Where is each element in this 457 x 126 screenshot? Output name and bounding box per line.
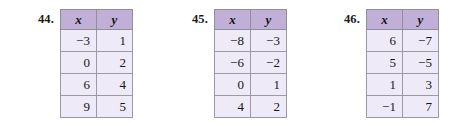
table-row: −8−3 [214,30,286,52]
cell-y-value: 2 [250,96,286,118]
cell-y-value: −7 [402,30,438,52]
cell-x-value: −3 [60,30,96,52]
cell-x-value: 6 [60,74,96,96]
cell-x-value: −6 [214,52,250,74]
cell-y-value: 7 [402,96,438,118]
problem-number: 44. [38,9,54,29]
table-header-row: xy [60,10,132,30]
cell-x-value: −1 [366,96,402,118]
exercise-45: 45.xy−8−3−6−20142 [192,9,287,118]
cell-x-value: 0 [214,74,250,96]
xy-value-table: xy−31026495 [60,9,133,118]
column-header-x: x [366,10,402,30]
xy-value-table: xy6−75−513−17 [366,9,439,118]
column-header-y: y [402,10,438,30]
cell-x-value: 9 [60,96,96,118]
table-row: 13 [366,74,438,96]
table-row: 42 [214,96,286,118]
table-row: 64 [60,74,132,96]
table-row: −6−2 [214,52,286,74]
table-row: −17 [366,96,438,118]
problem-number: 46. [344,9,360,29]
column-header-x: x [214,10,250,30]
cell-x-value: 5 [366,52,402,74]
column-header-x: x [60,10,96,30]
cell-y-value: 3 [402,74,438,96]
cell-x-value: −8 [214,30,250,52]
cell-y-value: −2 [250,52,286,74]
cell-y-value: 1 [96,30,132,52]
cell-y-value: 1 [250,74,286,96]
cell-x-value: 1 [366,74,402,96]
exercise-46: 46.xy6−75−513−17 [344,9,439,118]
cell-y-value: 4 [96,74,132,96]
cell-y-value: −5 [402,52,438,74]
column-header-y: y [250,10,286,30]
cell-x-value: 6 [366,30,402,52]
cell-x-value: 0 [60,52,96,74]
column-header-y: y [96,10,132,30]
cell-y-value: −3 [250,30,286,52]
xy-value-table: xy−8−3−6−20142 [214,9,287,118]
table-row: 5−5 [366,52,438,74]
table-row: 6−7 [366,30,438,52]
table-row: 02 [60,52,132,74]
cell-x-value: 4 [214,96,250,118]
exercise-44: 44.xy−31026495 [38,9,133,118]
table-row: 95 [60,96,132,118]
problem-number: 45. [192,9,208,29]
table-row: 01 [214,74,286,96]
exercise-row: 44.xy−3102649545.xy−8−3−6−2014246.xy6−75… [0,0,457,126]
table-row: −31 [60,30,132,52]
cell-y-value: 5 [96,96,132,118]
cell-y-value: 2 [96,52,132,74]
table-header-row: xy [366,10,438,30]
table-header-row: xy [214,10,286,30]
